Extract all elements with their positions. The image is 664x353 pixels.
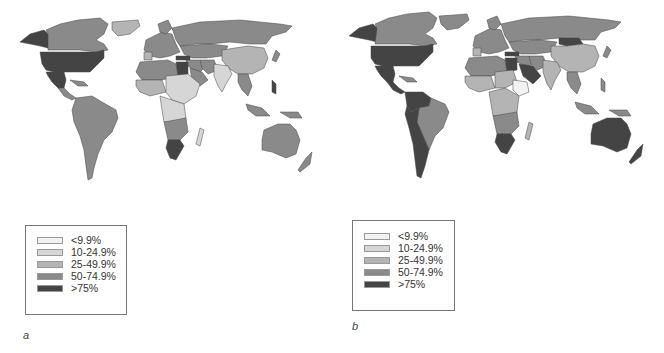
region-japan [272,50,280,62]
region-madagascar [525,122,533,140]
region-west-africa [136,80,166,96]
legend-label: 50-74.9% [71,272,116,281]
legend-swatch [37,273,63,280]
legend-label: 25-49.9% [71,260,116,269]
legend-label: <9.9% [71,236,101,245]
region-egypt [176,62,188,76]
legend-item: 50-74.9% [364,268,443,277]
world-map-a [0,0,330,200]
region-caribbean [70,80,88,86]
region-new-zealand [298,152,312,172]
legend-label: >75% [71,284,98,293]
region-se-asia [238,74,252,96]
panel-label-a: a [23,329,29,341]
legend-swatch [37,237,63,244]
legend-swatch [37,261,63,268]
world-map-b [332,0,664,200]
region-central-america [387,82,405,94]
region-alaska [349,24,377,42]
legend-item: 25-49.9% [364,256,443,265]
legend-label: 50-74.9% [398,268,443,277]
legend-label: 10-24.9% [398,244,443,253]
region-greenland [439,14,469,30]
region-iberia [473,48,481,56]
region-ethiopia [513,80,529,96]
region-new-guinea [609,110,631,116]
legend-swatch [364,281,390,288]
region-madagascar [196,128,204,146]
region-alaska [20,30,48,48]
legend-swatch [364,245,390,252]
legend-item: 50-74.9% [37,272,116,281]
region-south-africa [166,140,184,160]
region-philippines [601,78,605,92]
legend-b: <9.9% 10-24.9% 25-49.9% 50-74.9% >75% [352,220,455,311]
region-turkey [176,56,190,60]
region-se-asia [567,72,581,94]
legend-swatch [364,257,390,264]
region-caribbean [399,76,417,82]
legend-swatch [37,249,63,256]
region-canada [46,18,108,52]
legend-item: <9.9% [37,236,101,245]
region-scandinavia [487,16,501,30]
legend-label: 10-24.9% [71,248,116,257]
legend-label: 25-49.9% [398,256,443,265]
region-indonesia [246,104,270,116]
map-a-svg [0,0,330,200]
region-new-guinea [280,112,302,118]
region-india [543,60,561,90]
legend-swatch [364,269,390,276]
map-b-svg [332,0,664,200]
region-southern-africa [164,118,188,140]
legend-item: >75% [364,280,425,289]
legend-item: 10-24.9% [364,244,443,253]
legend-item: 25-49.9% [37,260,116,269]
region-usa [40,50,104,72]
region-egypt [505,58,517,72]
region-west-africa [465,76,495,92]
region-scandinavia [158,20,172,34]
legend-item: 10-24.9% [37,248,116,257]
region-india [214,64,232,92]
legend-swatch [364,233,390,240]
region-indonesia [575,102,599,114]
region-russia [172,20,292,46]
legend-item: >75% [37,284,98,293]
region-turkey [505,52,519,56]
region-philippines [272,80,276,94]
region-mexico [375,66,395,82]
region-new-zealand [629,144,643,164]
region-central-america [58,88,76,100]
region-canada [375,12,437,46]
region-south-africa [495,134,515,154]
region-iberia [144,52,152,60]
region-japan [603,46,611,58]
legend-swatch [37,285,63,292]
region-mexico [46,72,66,88]
region-south-america [72,96,118,180]
legend-a: <9.9% 10-24.9% 25-49.9% 50-74.9% >75% [25,225,127,315]
legend-label: <9.9% [398,232,428,241]
legend-label: >75% [398,280,425,289]
panel-label-b: b [352,320,358,332]
region-australia [591,118,631,152]
region-australia [262,124,300,158]
region-southern-africa [493,112,519,134]
legend-item: <9.9% [364,232,428,241]
region-usa [371,44,433,66]
region-greenland [112,20,140,36]
